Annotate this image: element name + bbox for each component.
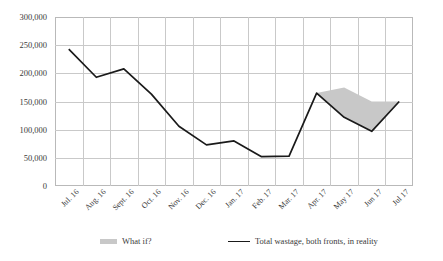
- y-axis-tick-label: 300,000: [19, 13, 47, 22]
- legend-item-label: What if?: [122, 236, 152, 246]
- y-axis-tick-label: 0: [43, 182, 47, 191]
- chart-legend: What if?Total wastage, both fronts, in r…: [0, 236, 443, 252]
- y-axis-tick-label: 250,000: [19, 41, 47, 50]
- y-axis: 300,000250,000200,000150,000100,00050,00…: [0, 0, 52, 200]
- y-axis-tick-label: 100,000: [19, 126, 47, 135]
- x-axis: Jul. 16Aug. 16Sept. 16Oct. 16Nov. 16Dec.…: [55, 188, 413, 234]
- plot-area: [55, 17, 413, 186]
- gray-box-swatch-icon: [100, 239, 117, 244]
- series-layer: [55, 17, 413, 186]
- black-line-swatch-icon: [228, 241, 250, 242]
- y-axis-tick-label: 50,000: [24, 154, 47, 163]
- legend-item[interactable]: What if?: [100, 236, 152, 246]
- legend-item-label: Total wastage, both fronts, in reality: [255, 236, 378, 246]
- y-axis-tick-label: 150,000: [19, 98, 47, 107]
- legend-item[interactable]: Total wastage, both fronts, in reality: [228, 236, 378, 246]
- line-chart: 300,000250,000200,000150,000100,00050,00…: [0, 0, 443, 261]
- y-axis-tick-label: 200,000: [19, 69, 47, 78]
